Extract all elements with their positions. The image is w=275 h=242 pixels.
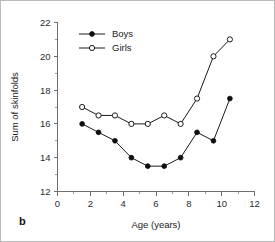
y-tick-label: 22 [40,17,51,28]
data-point-boys-4 [145,164,150,169]
data-point-boys-2 [113,138,118,143]
data-point-girls-6 [178,121,183,126]
data-point-girls-1 [96,113,101,118]
chart-legend: BoysGirls [79,28,133,53]
data-point-boys-9 [227,96,232,101]
data-point-girls-3 [129,121,134,126]
data-point-boys-7 [195,130,200,135]
data-point-boys-6 [178,155,183,160]
series-line-girls [82,39,230,124]
y-tick-label: 14 [40,152,51,163]
x-tick-label: 2 [88,198,93,209]
x-axis-tick-labels: 024681012 [55,198,260,209]
data-point-girls-4 [145,121,150,126]
data-point-girls-0 [80,104,85,109]
data-point-girls-7 [194,96,199,101]
data-point-girls-5 [162,113,167,118]
x-tick-label: 10 [216,198,227,209]
data-point-boys-0 [80,122,85,127]
data-point-boys-8 [211,138,216,143]
x-axis-major-ticks [58,192,255,196]
x-tick-label: 4 [121,198,126,209]
y-tick-label: 16 [40,118,51,129]
series-girls [80,37,233,127]
data-point-boys-1 [96,130,101,135]
series-line-boys [82,99,230,167]
series-boys [80,96,233,168]
legend-label-boys: Boys [112,28,133,39]
legend-marker-boys [90,32,95,37]
legend-marker-girls [89,45,94,50]
y-tick-label: 18 [40,85,51,96]
data-point-girls-9 [227,37,232,42]
data-point-boys-3 [129,155,134,160]
data-point-girls-8 [211,54,216,59]
y-tick-label: 12 [40,186,51,197]
x-tick-label: 0 [55,198,60,209]
data-point-girls-2 [112,113,117,118]
legend-label-girls: Girls [112,42,132,53]
y-axis-tick-labels: 121416182022 [40,17,51,197]
x-tick-label: 8 [186,198,191,209]
y-tick-label: 20 [40,51,51,62]
x-tick-label: 6 [153,198,158,209]
skinfold-line-chart: 121416182022 024681012 BoysGirls Age (ye… [1,1,275,242]
x-tick-label: 12 [249,198,260,209]
data-series-layer [80,37,233,169]
figure-panel: 121416182022 024681012 BoysGirls Age (ye… [0,0,275,242]
panel-label: b [19,215,26,227]
x-axis-title: Age (years) [131,219,180,230]
y-axis-title: Sum of skinfolds [9,72,20,142]
data-point-boys-5 [162,164,167,169]
